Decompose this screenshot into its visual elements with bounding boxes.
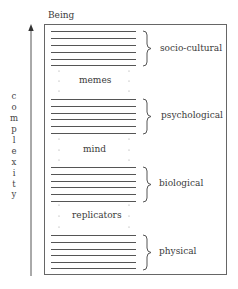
transition-label-replicators: replicators (72, 211, 122, 220)
axis-letter: x (10, 158, 18, 167)
transition-label-mind: mind (83, 145, 106, 154)
level-label-psychological: psychological (161, 111, 223, 120)
complexity-arrow (28, 24, 33, 276)
psychological-lines (51, 100, 136, 134)
axis-letter: e (10, 147, 18, 156)
socio-cultural-brace-icon (143, 31, 151, 66)
biological-brace-icon (143, 167, 151, 202)
level-label-physical: physical (159, 247, 196, 256)
socio-cultural-lines (51, 32, 136, 66)
axis-letter: p (10, 125, 18, 134)
axis-letter: o (10, 103, 18, 112)
biological-lines (51, 168, 136, 202)
level-label-socio-cultural: socio-cultural (160, 44, 222, 53)
being-box (45, 25, 227, 275)
axis-letter: y (10, 190, 18, 199)
physical-brace-icon (143, 235, 151, 270)
axis-letter: l (10, 136, 18, 145)
diagram-title: Being (48, 11, 74, 20)
psychological-brace-icon (143, 99, 151, 134)
level-label-biological: biological (159, 179, 203, 188)
physical-lines (51, 236, 136, 269)
axis-letter: i (10, 169, 18, 178)
transition-label-memes: memes (79, 76, 111, 85)
axis-letter: c (10, 92, 18, 101)
axis-letter: m (10, 114, 18, 123)
axis-letter: t (10, 180, 18, 189)
